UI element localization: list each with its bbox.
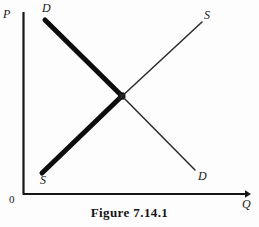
supply-demand-diagram [0, 0, 259, 227]
demand-curve-bottom-label: D [198, 170, 207, 182]
y-axis-label: P [3, 8, 10, 20]
figure-caption: Figure 7.14.1 [0, 205, 259, 221]
supply-curve-thin-upper [119, 22, 202, 99]
demand-curve-thick-upper [45, 20, 123, 97]
demand-curve-thin-lower [120, 94, 195, 170]
supply-curve-thick-lower [42, 95, 123, 173]
origin-label: 0 [9, 194, 15, 205]
figure-container: P 0 Q D S S D Figure 7.14.1 [0, 0, 259, 227]
supply-curve-top-label: S [204, 9, 210, 21]
supply-curve-bottom-label: S [40, 174, 46, 186]
demand-curve-top-label: D [42, 2, 51, 14]
